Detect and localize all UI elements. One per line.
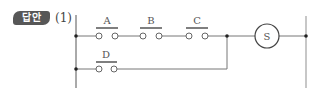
contact-a-label: A xyxy=(102,15,111,26)
output-coil-s: S xyxy=(255,24,279,48)
contact-d-label: D xyxy=(102,49,110,60)
contact-d: D xyxy=(96,49,117,72)
junction-dot xyxy=(74,34,78,38)
ladder-diagram: A B C D S xyxy=(0,0,320,90)
rung-2 xyxy=(76,36,227,69)
contact-b: B xyxy=(140,15,162,39)
junction-dot xyxy=(225,34,229,38)
junction-dot xyxy=(74,67,78,71)
coil-s-label: S xyxy=(264,31,271,42)
junction-dot xyxy=(304,34,308,38)
contact-c-label: C xyxy=(193,15,201,26)
contact-c: C xyxy=(186,15,208,39)
contact-a: A xyxy=(96,15,118,39)
contact-b-label: B xyxy=(147,15,154,26)
